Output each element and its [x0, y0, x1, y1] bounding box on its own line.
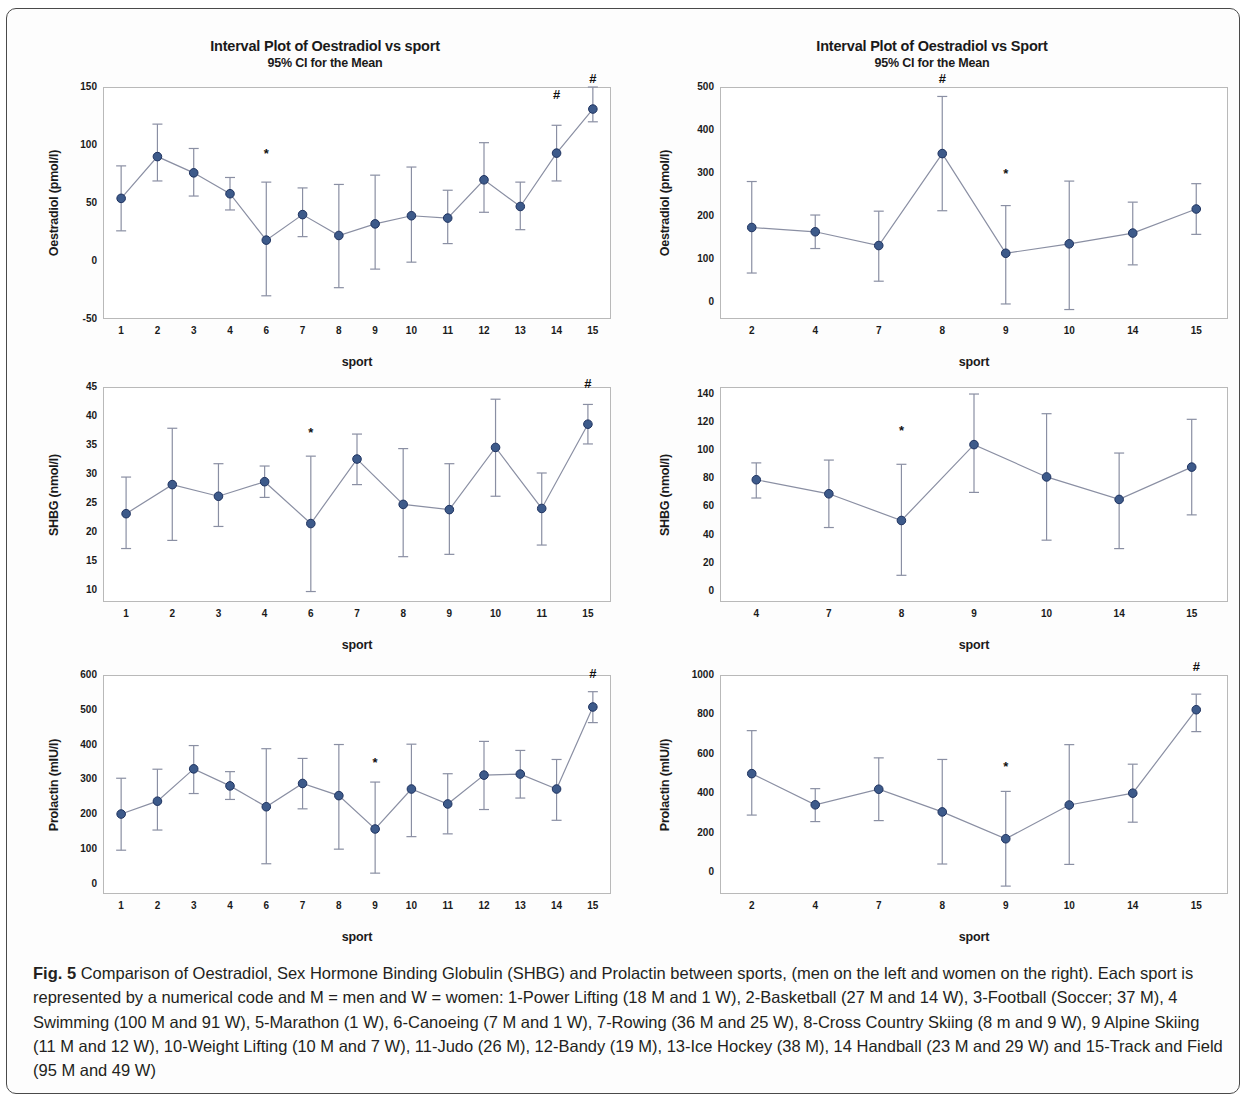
plot-frame-prolactin-women — [720, 675, 1228, 894]
x-tick-label: 6 — [250, 900, 282, 911]
x-tick-label: 14 — [1103, 608, 1135, 619]
chart-subtitle-oestradiol-men: 95% CI for the Mean — [25, 56, 625, 70]
significance-hash-marker: # — [1193, 659, 1201, 674]
y-tick-label: 150 — [57, 81, 97, 92]
x-tick-label: 15 — [577, 900, 609, 911]
x-tick-label: 10 — [395, 900, 427, 911]
y-tick-label: 0 — [57, 878, 97, 889]
x-tick-label: 4 — [799, 900, 831, 911]
y-tick-label: 120 — [674, 416, 714, 427]
x-axis-label-shbg-men: sport — [103, 638, 611, 652]
chart-panel-prolactin-men: Prolactin (mIU/l)01002003004005006001234… — [25, 659, 625, 939]
y-tick-label: 20 — [57, 526, 97, 537]
chart-title-oestradiol-men: Interval Plot of Oestradiol vs sport — [25, 37, 625, 55]
x-tick-label: 10 — [1053, 900, 1085, 911]
x-axis-label-prolactin-men: sport — [103, 930, 611, 944]
x-tick-label: 10 — [395, 325, 427, 336]
y-tick-label: 0 — [674, 296, 714, 307]
y-tick-label: 600 — [57, 669, 97, 680]
x-tick-label: 10 — [480, 608, 512, 619]
x-tick-label: 11 — [432, 900, 464, 911]
x-tick-label: 7 — [863, 900, 895, 911]
x-axis-label-oestradiol-women: sport — [720, 355, 1228, 369]
y-tick-label: 100 — [57, 843, 97, 854]
x-tick-label: 14 — [541, 325, 573, 336]
x-tick-label: 9 — [990, 900, 1022, 911]
x-tick-label: 13 — [504, 325, 536, 336]
y-tick-label: 300 — [57, 773, 97, 784]
x-tick-label: 4 — [249, 608, 281, 619]
y-tick-label: 300 — [674, 167, 714, 178]
y-tick-label: 400 — [57, 739, 97, 750]
x-tick-label: 11 — [526, 608, 558, 619]
x-tick-label: 3 — [202, 608, 234, 619]
x-tick-label: 11 — [432, 325, 464, 336]
x-tick-label: 8 — [926, 900, 958, 911]
x-tick-label: 2 — [156, 608, 188, 619]
x-tick-label: 14 — [541, 900, 573, 911]
y-tick-label: 500 — [57, 704, 97, 715]
x-tick-label: 1 — [110, 608, 142, 619]
y-axis-label-oestradiol-women: Oestradiol (pmol/l) — [658, 150, 672, 257]
x-axis-label-prolactin-women: sport — [720, 930, 1228, 944]
significance-hash-marker: # — [589, 71, 597, 86]
chart-subtitle-oestradiol-women: 95% CI for the Mean — [632, 56, 1232, 70]
plot-grid: Interval Plot of Oestradiol vs sport95% … — [7, 9, 1241, 939]
y-tick-label: 50 — [57, 197, 97, 208]
y-tick-label: -50 — [57, 313, 97, 324]
y-tick-label: 600 — [674, 748, 714, 759]
y-tick-label: 200 — [57, 808, 97, 819]
figure-caption-text: Comparison of Oestradiol, Sex Hormone Bi… — [33, 964, 1223, 1079]
x-tick-label: 9 — [990, 325, 1022, 336]
x-axis-label-oestradiol-men: sport — [103, 355, 611, 369]
x-tick-label: 8 — [885, 608, 917, 619]
y-tick-label: 35 — [57, 439, 97, 450]
y-axis-label-shbg-men: SHBG (nmol/l) — [47, 453, 61, 535]
y-tick-label: 15 — [57, 555, 97, 566]
significance-hash-marker: # — [939, 71, 947, 86]
y-tick-label: 10 — [57, 584, 97, 595]
y-tick-label: 80 — [674, 472, 714, 483]
x-axis-label-shbg-women: sport — [720, 638, 1228, 652]
x-tick-label: 7 — [287, 325, 319, 336]
y-tick-label: 800 — [674, 708, 714, 719]
y-tick-label: 45 — [57, 381, 97, 392]
y-tick-label: 400 — [674, 787, 714, 798]
y-axis-label-shbg-women: SHBG (nmol/l) — [658, 453, 672, 535]
x-tick-label: 12 — [468, 900, 500, 911]
y-tick-label: 140 — [674, 388, 714, 399]
figure-caption: Fig. 5 Comparison of Oestradiol, Sex Hor… — [33, 961, 1223, 1082]
y-tick-label: 200 — [674, 210, 714, 221]
x-tick-label: 2 — [141, 900, 173, 911]
x-tick-label: 4 — [740, 608, 772, 619]
x-tick-label: 9 — [359, 900, 391, 911]
y-tick-label: 25 — [57, 497, 97, 508]
chart-panel-oestradiol-women: Interval Plot of Oestradiol vs Sport95% … — [632, 27, 1232, 377]
x-tick-label: 8 — [926, 325, 958, 336]
y-tick-label: 40 — [57, 410, 97, 421]
x-tick-label: 6 — [295, 608, 327, 619]
y-tick-label: 1000 — [674, 669, 714, 680]
x-tick-label: 10 — [1053, 325, 1085, 336]
x-tick-label: 7 — [341, 608, 373, 619]
y-tick-label: 0 — [674, 585, 714, 596]
plot-frame-oestradiol-men — [103, 87, 611, 319]
x-tick-label: 3 — [178, 900, 210, 911]
figure-frame: Interval Plot of Oestradiol vs sport95% … — [6, 8, 1240, 1094]
x-tick-label: 9 — [359, 325, 391, 336]
chart-panel-oestradiol-men: Interval Plot of Oestradiol vs sport95% … — [25, 27, 625, 377]
x-tick-label: 7 — [813, 608, 845, 619]
x-tick-label: 4 — [214, 900, 246, 911]
x-tick-label: 14 — [1117, 900, 1149, 911]
y-tick-label: 100 — [674, 253, 714, 264]
x-tick-label: 15 — [1176, 608, 1208, 619]
y-tick-label: 100 — [674, 444, 714, 455]
y-tick-label: 400 — [674, 124, 714, 135]
x-tick-label: 15 — [1180, 325, 1212, 336]
x-tick-label: 7 — [287, 900, 319, 911]
figure-label: Fig. 5 — [33, 964, 76, 982]
x-tick-label: 8 — [323, 325, 355, 336]
y-tick-label: 0 — [57, 255, 97, 266]
x-tick-label: 2 — [141, 325, 173, 336]
x-tick-label: 3 — [178, 325, 210, 336]
